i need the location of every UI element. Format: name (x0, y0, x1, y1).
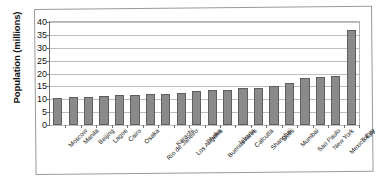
bar (331, 76, 340, 125)
bar (177, 93, 186, 125)
bar-slot (220, 22, 235, 125)
y-axis-tick-label: 25 (37, 56, 47, 66)
x-axis-tick-label: Cairo (126, 127, 142, 143)
bar-slot (235, 22, 250, 125)
bar-slot (189, 22, 204, 125)
bar-slot (143, 22, 158, 125)
bar-slot (81, 22, 96, 125)
bar (316, 77, 325, 125)
bar (223, 90, 232, 125)
bar (192, 91, 201, 125)
bar-series (50, 22, 359, 125)
bar (161, 94, 170, 125)
bar-slot (112, 22, 127, 125)
bar-slot (297, 22, 312, 125)
y-axis-tick-label: 20 (37, 69, 47, 79)
bar (146, 94, 155, 125)
y-axis-tick-label: 35 (37, 30, 47, 40)
plot-area: 0510152025303540 (49, 21, 360, 126)
bar-slot (313, 22, 328, 125)
y-axis-tick-label: 0 (42, 120, 47, 130)
bar (208, 90, 217, 125)
x-axis-tick-label: Osaka (143, 127, 161, 145)
bar (269, 86, 278, 125)
bar (53, 98, 62, 125)
bar (238, 88, 247, 125)
bar-slot (328, 22, 343, 125)
y-axis-tick-label: 10 (37, 94, 47, 104)
bar (115, 95, 124, 125)
bar (254, 88, 263, 125)
y-axis-tick-mark (47, 125, 50, 126)
y-axis-tick-label: 30 (37, 43, 47, 53)
bar-slot (50, 22, 65, 125)
bar (300, 78, 309, 125)
bar (69, 97, 78, 125)
y-axis-tick-label: 40 (37, 17, 47, 27)
bar (99, 96, 108, 125)
bar-slot (266, 22, 281, 125)
bar (130, 95, 139, 125)
chart-figure: Population (millions) 0510152025303540 M… (0, 0, 380, 193)
x-axis-tick-label: Delhi (281, 127, 296, 142)
y-axis-title: Population (millions) (11, 0, 22, 118)
bar-slot (205, 22, 220, 125)
bar-slot (158, 22, 173, 125)
bar (285, 83, 294, 125)
bar (84, 97, 93, 125)
bar-slot (282, 22, 297, 125)
x-axis-tick-label: Mumbai (299, 127, 320, 148)
x-axis-tick-label: Dhaka (205, 127, 223, 145)
bar-slot (174, 22, 189, 125)
y-axis-tick-label: 5 (42, 107, 47, 117)
x-axis-tick-label: Lagos (112, 127, 129, 144)
bar-slot (65, 22, 80, 125)
bar-slot (96, 22, 111, 125)
x-axis-labels: MoscowManilaBeijingLagosCairoOsakaRio de… (49, 127, 360, 187)
y-axis-tick-label: 15 (37, 81, 47, 91)
bar-slot (127, 22, 142, 125)
bar-slot (251, 22, 266, 125)
bar (347, 30, 356, 125)
bar-slot (344, 22, 359, 125)
